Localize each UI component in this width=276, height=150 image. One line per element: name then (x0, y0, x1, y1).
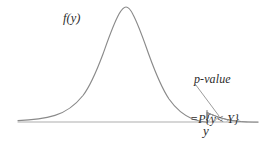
density-function-label: f(y) (63, 12, 80, 25)
pvalue-probability-expression: =P{y< Y} (190, 113, 239, 126)
density-curve-main (18, 7, 207, 122)
pvalue-density-figure: f(y) p-value =P{y< Y} y (0, 0, 276, 150)
observed-value-axis-label: y (203, 124, 209, 138)
pvalue-annotation-label: p-value =P{y< Y} (190, 48, 239, 150)
pvalue-label-text: p-value (190, 73, 239, 86)
